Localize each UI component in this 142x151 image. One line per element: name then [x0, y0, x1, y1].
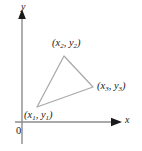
vertex-label-v1-sub2: 1 [46, 114, 50, 122]
vertex-label-v2-sub1: 2 [60, 42, 64, 50]
vertex-label-v2-mid: , y [64, 37, 74, 48]
vertex-label-v1-suffix: ) [49, 109, 53, 120]
figure-canvas [0, 0, 142, 151]
triangle-shape [37, 56, 93, 107]
vertex-label-v2-sub2: 2 [74, 42, 78, 50]
y-axis-label: y [21, 2, 25, 12]
vertex-label-v3-sub2: 3 [119, 85, 123, 93]
vertex-label-v3: (x3, y3) [97, 81, 126, 92]
vertex-label-v3-mid: , y [109, 80, 119, 91]
coordinate-triangle-figure: (x2, y2) (x3, y3) (x1, y1) x y 0 [0, 0, 142, 151]
vertex-label-v1: (x1, y1) [24, 110, 53, 121]
arrow-right-icon [111, 118, 122, 126]
vertex-label-v3-prefix: (x [97, 80, 105, 91]
vertex-label-v2-suffix: ) [77, 37, 81, 48]
vertex-label-v2: (x2, y2) [52, 38, 81, 49]
vertex-label-v2-prefix: (x [52, 37, 60, 48]
vertex-label-v3-sub1: 3 [105, 85, 109, 93]
vertex-label-v3-suffix: ) [122, 80, 126, 91]
x-axis-label: x [125, 115, 129, 125]
vertex-label-v1-sub1: 1 [32, 114, 36, 122]
origin-label: 0 [16, 126, 21, 137]
vertex-label-v1-prefix: (x [24, 109, 32, 120]
vertex-label-v1-mid: , y [36, 109, 46, 120]
